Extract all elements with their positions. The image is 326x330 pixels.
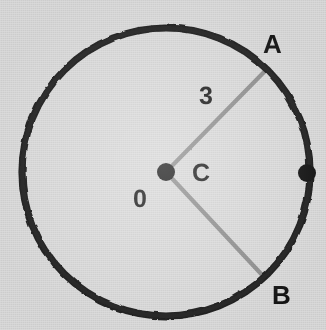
radius-segment-ob <box>166 172 264 277</box>
center-point-dot <box>157 163 175 181</box>
label-point-a: A <box>263 31 282 57</box>
label-radius-length: 3 <box>199 84 213 109</box>
label-point-b: B <box>272 282 291 308</box>
radius-segment-oa <box>166 70 266 172</box>
radius-segments-group <box>166 70 266 277</box>
right-edge-point-dot <box>298 164 316 182</box>
label-angle-c: C <box>192 161 210 186</box>
point-markers-group <box>157 163 316 182</box>
circle-diagram-figure: A B C 3 0 <box>0 0 326 330</box>
label-center-o: 0 <box>133 187 147 212</box>
